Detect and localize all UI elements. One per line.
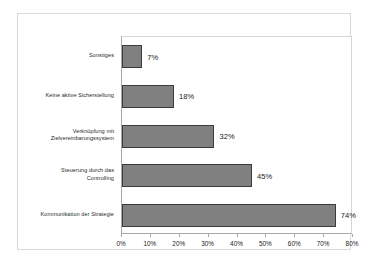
x-tick-label: 60% (288, 240, 301, 247)
x-tick-label: 20% (172, 240, 185, 247)
x-tick-label: 40% (230, 240, 243, 247)
x-tick-label: 50% (259, 240, 272, 247)
x-tick-label: 30% (201, 240, 214, 247)
x-tick-mark (208, 234, 209, 237)
x-tick-mark (179, 234, 180, 237)
x-tick-mark (237, 234, 238, 237)
chart-frame: 7%18%32%45%74% SonstigesKeine aktive Sic… (17, 13, 351, 250)
x-tick-label: 80% (346, 240, 359, 247)
x-tick-mark (323, 234, 324, 237)
x-axis: 0%10%20%30%40%50%60%70%80% (18, 14, 350, 249)
x-tick-mark (150, 234, 151, 237)
x-tick-mark (121, 234, 122, 237)
x-tick-mark (294, 234, 295, 237)
x-tick-label: 70% (317, 240, 330, 247)
x-tick-label: 10% (143, 240, 156, 247)
x-tick-label: 0% (116, 240, 125, 247)
x-tick-mark (265, 234, 266, 237)
x-tick-mark (352, 234, 353, 237)
